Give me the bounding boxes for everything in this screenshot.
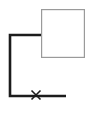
square-node[interactable] [42, 10, 85, 58]
diagram-svg [0, 0, 93, 122]
diagram-canvas [0, 0, 93, 122]
